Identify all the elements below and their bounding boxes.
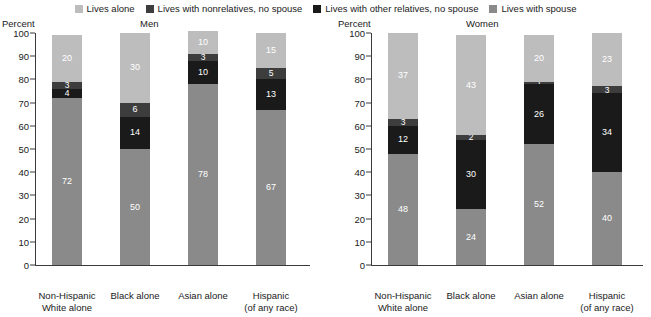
y-axis-tick-label: 10 bbox=[18, 236, 29, 247]
x-axis-label-line1: Black alone bbox=[446, 290, 495, 301]
bar-segment[interactable]: 30 bbox=[456, 140, 486, 210]
bar-segment[interactable]: 37 bbox=[388, 33, 418, 119]
bar-segment-value: 10 bbox=[198, 38, 208, 47]
bar-group: 4812337243024352261204034323 bbox=[372, 33, 641, 265]
bar-segment-value: 50 bbox=[130, 203, 140, 212]
bar-segment[interactable]: 10 bbox=[188, 61, 218, 84]
bar-segment[interactable]: 15 bbox=[256, 33, 286, 68]
chart-panel-women: Percent Women 1009080706050403020100 481… bbox=[320, 18, 651, 307]
bar-segment[interactable]: 6 bbox=[120, 103, 150, 117]
bar-segment-value: 14 bbox=[130, 128, 140, 137]
bar-segment[interactable]: 48 bbox=[388, 154, 418, 265]
bar-slot: 4034323 bbox=[576, 33, 638, 265]
legend-swatch-icon bbox=[489, 5, 497, 13]
bar-segment-value: 30 bbox=[130, 63, 140, 72]
bar-segment-value: 78 bbox=[198, 170, 208, 179]
legend-label: Lives alone bbox=[87, 4, 135, 14]
x-axis-label-line1: Non-Hispanic bbox=[374, 290, 431, 301]
bar-segment[interactable]: 14 bbox=[120, 117, 150, 149]
stacked-bar[interactable]: 5014630 bbox=[120, 33, 150, 265]
bar-segment[interactable]: 1 bbox=[524, 82, 554, 84]
bar-segment[interactable]: 13 bbox=[256, 79, 286, 109]
bar-segment-value: 3 bbox=[401, 119, 406, 126]
bar-slot: 4812337 bbox=[372, 33, 434, 265]
bar-slot: 5014630 bbox=[104, 33, 166, 265]
bar-segment[interactable]: 26 bbox=[524, 84, 554, 144]
y-axis-tick-label: 40 bbox=[354, 167, 365, 178]
bar-segment[interactable]: 3 bbox=[388, 119, 418, 126]
bar-segment-value: 6 bbox=[132, 105, 137, 114]
bar-slot: 2430243 bbox=[440, 33, 502, 265]
bar-segment[interactable]: 12 bbox=[388, 126, 418, 154]
bar-segment[interactable]: 30 bbox=[120, 33, 150, 103]
x-axis-label: Hispanic(of any race) bbox=[565, 290, 649, 313]
bar-slot: 5226120 bbox=[508, 33, 570, 265]
bar-slot: 724320 bbox=[36, 33, 98, 265]
bar-segment-value: 12 bbox=[398, 135, 408, 144]
bar-segment-value: 40 bbox=[602, 214, 612, 223]
bar-segment[interactable]: 23 bbox=[592, 33, 622, 86]
bar-segment[interactable]: 20 bbox=[52, 35, 82, 81]
bar-segment-value: 23 bbox=[602, 55, 612, 64]
bar-segment[interactable]: 40 bbox=[592, 172, 622, 265]
stacked-bar[interactable]: 4034323 bbox=[592, 33, 622, 265]
bar-segment[interactable]: 3 bbox=[592, 86, 622, 93]
plot-area: 1009080706050403020100 48123372430243522… bbox=[320, 33, 651, 273]
panel-title: Women bbox=[466, 18, 499, 29]
bar-segment-value: 67 bbox=[266, 183, 276, 192]
bar-slot: 6713515 bbox=[240, 33, 302, 265]
plot-area: 1009080706050403020100 72432050146307810… bbox=[0, 33, 320, 273]
bar-segment[interactable]: 4 bbox=[52, 89, 82, 98]
bar-segment[interactable]: 2 bbox=[456, 135, 486, 140]
bar-segment[interactable]: 3 bbox=[52, 82, 82, 89]
bar-segment[interactable]: 50 bbox=[120, 149, 150, 265]
bar-segment-value: 10 bbox=[198, 68, 208, 77]
legend-label: Lives with spouse bbox=[501, 4, 576, 14]
y-axis-tick-label: 90 bbox=[354, 51, 365, 62]
stacked-bar[interactable]: 7810310 bbox=[188, 31, 218, 265]
bar-segment[interactable]: 3 bbox=[188, 54, 218, 61]
stacked-bar[interactable]: 6713515 bbox=[256, 33, 286, 265]
y-axis-tick-label: 80 bbox=[354, 74, 365, 85]
bar-group: 724320501463078103106713515 bbox=[36, 33, 310, 265]
legend-item: Lives with nonrelatives, no spouse bbox=[146, 4, 303, 14]
bar-segment[interactable]: 5 bbox=[256, 68, 286, 80]
legend-item: Lives alone bbox=[75, 4, 135, 14]
bar-segment[interactable]: 52 bbox=[524, 144, 554, 265]
y-axis-tick-label: 60 bbox=[354, 120, 365, 131]
x-axis-label-line2: White alone bbox=[361, 302, 445, 314]
stacked-bar[interactable]: 5226120 bbox=[524, 35, 554, 265]
y-axis-tick-label: 30 bbox=[18, 190, 29, 201]
bar-segment[interactable]: 24 bbox=[456, 209, 486, 265]
x-axis-labels: Non-HispanicWhite aloneBlack aloneAsian … bbox=[36, 290, 310, 317]
y-axis-tick-label: 90 bbox=[18, 51, 29, 62]
panel-header: Percent Women bbox=[320, 18, 651, 33]
bar-segment-value: 52 bbox=[534, 200, 544, 209]
y-axis-tick-label: 30 bbox=[354, 190, 365, 201]
y-axis-tick-label: 100 bbox=[13, 28, 29, 39]
stacked-bar[interactable]: 724320 bbox=[52, 35, 82, 265]
bar-segment[interactable]: 72 bbox=[52, 98, 82, 265]
y-axis-tick-label: 70 bbox=[354, 97, 365, 108]
stacked-bar[interactable]: 2430243 bbox=[456, 35, 486, 265]
bar-segment[interactable]: 43 bbox=[456, 35, 486, 135]
bar-segment[interactable]: 10 bbox=[188, 31, 218, 54]
bar-segment[interactable]: 34 bbox=[592, 93, 622, 172]
bar-segment-value: 13 bbox=[266, 90, 276, 99]
bar-segment[interactable]: 67 bbox=[256, 110, 286, 265]
legend-swatch-icon bbox=[146, 5, 154, 13]
x-axis-label-line2: (of any race) bbox=[229, 302, 313, 314]
panel-title: Men bbox=[140, 18, 158, 29]
panel-header: Percent Men bbox=[0, 18, 320, 33]
bar-segment[interactable]: 20 bbox=[524, 35, 554, 81]
y-axis-tick-label: 0 bbox=[24, 260, 29, 271]
x-axis-label-line1: Asian alone bbox=[178, 290, 228, 301]
x-axis-label-line1: Hispanic bbox=[253, 290, 289, 301]
legend-label: Lives with nonrelatives, no spouse bbox=[158, 4, 303, 14]
bar-segment[interactable]: 78 bbox=[188, 84, 218, 265]
y-axis-tick-label: 70 bbox=[18, 97, 29, 108]
bar-segment-value: 4 bbox=[65, 89, 70, 98]
stacked-bar[interactable]: 4812337 bbox=[388, 33, 418, 265]
bar-segment-value: 34 bbox=[602, 128, 612, 137]
bar-segment-value: 20 bbox=[62, 54, 72, 63]
